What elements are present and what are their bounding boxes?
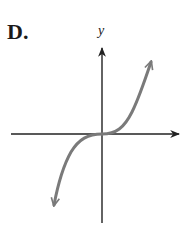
curve-upper-branch bbox=[102, 62, 151, 134]
cubic-graph bbox=[0, 0, 181, 233]
curve-lower-branch bbox=[54, 134, 102, 205]
